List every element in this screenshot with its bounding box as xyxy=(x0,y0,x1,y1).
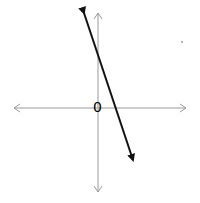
stray-dot xyxy=(181,41,183,43)
graphed-line xyxy=(84,13,133,160)
origin-label: 0 xyxy=(93,100,102,114)
